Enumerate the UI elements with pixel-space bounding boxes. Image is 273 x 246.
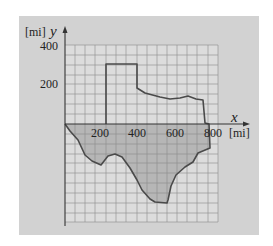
x-tick-800: 800 (204, 126, 222, 140)
x-axis-label: x (230, 109, 238, 125)
y-unit-label: [mi] (25, 25, 46, 39)
y-tick-200: 200 (40, 77, 58, 91)
y-axis-label: y (48, 23, 57, 39)
x-tick-600: 600 (166, 126, 184, 140)
texas-coordinate-figure: [mi] y 400 200 x 200 400 600 800 [mi] (0, 0, 273, 246)
x-tick-200: 200 (91, 126, 109, 140)
x-unit-label: [mi] (229, 126, 250, 140)
x-tick-400: 400 (128, 126, 146, 140)
y-tick-400: 400 (40, 39, 58, 53)
y-axis-arrow-icon (63, 26, 68, 33)
